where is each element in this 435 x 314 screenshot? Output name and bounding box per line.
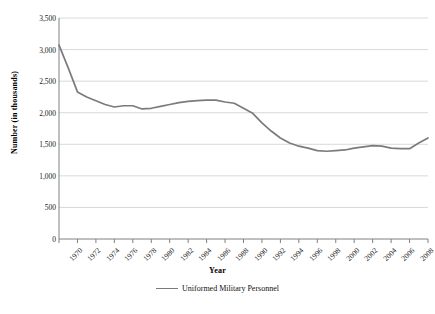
x-tick-label: 1980 — [160, 246, 177, 263]
chart-container: Number (in thousands) 05001,0001,5002,00… — [0, 0, 435, 314]
x-tick-label: 1986 — [215, 246, 232, 263]
x-tick-label: 1982 — [178, 246, 195, 263]
x-tick-label: 1990 — [252, 246, 269, 263]
x-tick-label: 2000 — [344, 246, 361, 263]
legend-line-swatch — [156, 288, 178, 289]
x-tick-label: 1996 — [307, 246, 324, 263]
x-tick-label: 1974 — [104, 246, 121, 263]
x-tick-label: 1998 — [326, 246, 343, 263]
x-tick-label: 1978 — [141, 246, 158, 263]
x-tick-label: 1970 — [67, 246, 84, 263]
x-tick-label: 2004 — [381, 246, 398, 263]
x-tick-label: 1976 — [123, 246, 140, 263]
chart-legend: Uniformed Military Personnel — [0, 284, 435, 293]
x-tick-label: 1972 — [86, 246, 103, 263]
x-tick-label: 1984 — [197, 246, 214, 263]
x-tick-label: 2006 — [399, 246, 416, 263]
x-tick-label: 2002 — [363, 246, 380, 263]
x-tick-label: 2008 — [418, 246, 435, 263]
x-tick-label: 1988 — [233, 246, 250, 263]
x-axis-title: Year — [0, 266, 435, 275]
legend-label-uniformed-military-personnel: Uniformed Military Personnel — [182, 284, 279, 293]
x-tick-label: 1994 — [289, 246, 306, 263]
x-tick-label: 1992 — [270, 246, 287, 263]
